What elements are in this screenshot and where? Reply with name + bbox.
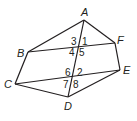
- label-a: A: [80, 6, 88, 18]
- label-c: C: [4, 78, 12, 90]
- angle-7: 7: [63, 79, 69, 90]
- label-f: F: [117, 34, 125, 46]
- angle-3: 3: [71, 36, 77, 47]
- angle-8: 8: [73, 79, 79, 90]
- segment-cd: [15, 84, 68, 97]
- angle-2: 2: [77, 67, 83, 78]
- angle-1: 1: [82, 36, 88, 47]
- segment-af: [84, 20, 115, 43]
- angle-5: 5: [79, 47, 85, 58]
- label-d: D: [64, 100, 72, 112]
- geometry-diagram: A B C D E F 3 1 4 5 6 2 7 8: [0, 0, 137, 121]
- segment-fe: [115, 43, 120, 70]
- angle-4: 4: [69, 47, 75, 58]
- label-b: B: [17, 47, 24, 59]
- angle-6: 6: [65, 67, 71, 78]
- label-e: E: [123, 64, 131, 76]
